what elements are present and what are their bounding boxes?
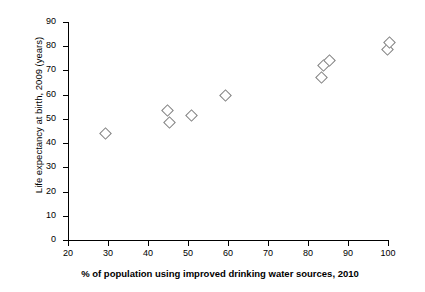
x-tick-label: 90 <box>333 249 363 258</box>
scatter-chart: 0102030405060708090 2030405060708090100 … <box>0 0 425 292</box>
x-tick <box>388 241 389 246</box>
x-tick <box>228 241 229 246</box>
x-tick <box>348 241 349 246</box>
x-tick-label: 20 <box>53 249 83 258</box>
x-tick <box>68 241 69 246</box>
x-tick-label: 80 <box>293 249 323 258</box>
y-tick <box>63 167 68 168</box>
y-tick <box>63 95 68 96</box>
y-tick <box>63 192 68 193</box>
x-tick-label: 100 <box>373 249 403 258</box>
x-tick-label: 30 <box>93 249 123 258</box>
x-axis-title: % of population using improved drinking … <box>40 268 400 279</box>
plot-area <box>68 22 388 240</box>
y-tick <box>63 70 68 71</box>
y-tick <box>63 46 68 47</box>
x-tick-label: 40 <box>133 249 163 258</box>
x-tick <box>108 241 109 246</box>
x-tick <box>148 241 149 246</box>
x-tick <box>188 241 189 246</box>
y-axis-line <box>68 22 69 241</box>
y-tick <box>63 143 68 144</box>
y-tick-label: 0 <box>30 235 56 244</box>
x-tick <box>268 241 269 246</box>
x-tick-label: 70 <box>253 249 283 258</box>
x-tick <box>308 241 309 246</box>
y-tick <box>63 216 68 217</box>
y-tick <box>63 119 68 120</box>
x-tick-label: 60 <box>213 249 243 258</box>
y-tick <box>63 22 68 23</box>
x-tick-label: 50 <box>173 249 203 258</box>
y-axis-title: Life expectancy at birth, 2009 (years) <box>34 0 44 230</box>
